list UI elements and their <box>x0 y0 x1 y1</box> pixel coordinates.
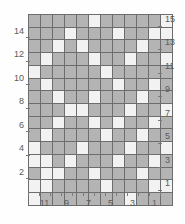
pattern-cell[interactable] <box>125 65 137 78</box>
pattern-cell[interactable] <box>161 193 173 206</box>
pattern-cell[interactable] <box>137 142 149 155</box>
pattern-cell[interactable] <box>77 104 89 117</box>
pattern-cell[interactable] <box>137 167 149 180</box>
pattern-cell[interactable] <box>53 27 65 40</box>
pattern-cell[interactable] <box>41 116 53 129</box>
pattern-cell[interactable] <box>137 53 149 66</box>
pattern-cell[interactable] <box>65 65 77 78</box>
pattern-cell[interactable] <box>77 180 89 193</box>
pattern-cell[interactable] <box>125 15 137 28</box>
pattern-cell[interactable] <box>77 91 89 104</box>
pattern-cell[interactable] <box>113 53 125 66</box>
pattern-cell[interactable] <box>101 91 113 104</box>
pattern-cell[interactable] <box>113 78 125 91</box>
pattern-cell[interactable] <box>149 116 161 129</box>
pattern-cell[interactable] <box>125 154 137 167</box>
pattern-cell[interactable] <box>53 167 65 180</box>
pattern-cell[interactable] <box>41 180 53 193</box>
pattern-cell[interactable] <box>53 53 65 66</box>
pattern-cell[interactable] <box>41 129 53 142</box>
pattern-cell[interactable] <box>41 167 53 180</box>
pattern-cell[interactable] <box>113 142 125 155</box>
pattern-cell[interactable] <box>137 154 149 167</box>
pattern-cell[interactable] <box>101 78 113 91</box>
pattern-cell[interactable] <box>53 116 65 129</box>
pattern-cell[interactable] <box>101 154 113 167</box>
pattern-cell[interactable] <box>113 167 125 180</box>
pattern-cell[interactable] <box>77 15 89 28</box>
pattern-cell[interactable] <box>89 180 101 193</box>
pattern-cell[interactable] <box>101 104 113 117</box>
pattern-cell[interactable] <box>41 27 53 40</box>
pattern-cell[interactable] <box>149 91 161 104</box>
pattern-cell[interactable] <box>113 180 125 193</box>
pattern-cell[interactable] <box>29 154 41 167</box>
pattern-cell[interactable] <box>101 15 113 28</box>
pattern-cell[interactable] <box>149 167 161 180</box>
pattern-cell[interactable] <box>101 167 113 180</box>
pattern-cell[interactable] <box>77 27 89 40</box>
pattern-cell[interactable] <box>41 142 53 155</box>
pattern-cell[interactable] <box>77 142 89 155</box>
pattern-cell[interactable] <box>101 129 113 142</box>
pattern-cell[interactable] <box>113 15 125 28</box>
pattern-cell[interactable] <box>41 91 53 104</box>
pattern-cell[interactable] <box>29 40 41 53</box>
pattern-cell[interactable] <box>125 91 137 104</box>
pattern-cell[interactable] <box>77 154 89 167</box>
pattern-cell[interactable] <box>53 91 65 104</box>
pattern-cell[interactable] <box>149 104 161 117</box>
pattern-cell[interactable] <box>101 180 113 193</box>
pattern-cell[interactable] <box>29 53 41 66</box>
pattern-cell[interactable] <box>77 78 89 91</box>
pattern-cell[interactable] <box>149 40 161 53</box>
pattern-cell[interactable] <box>41 40 53 53</box>
pattern-cell[interactable] <box>53 15 65 28</box>
pattern-cell[interactable] <box>89 154 101 167</box>
pattern-cell[interactable] <box>29 142 41 155</box>
pattern-cell[interactable] <box>101 65 113 78</box>
pattern-cell[interactable] <box>29 104 41 117</box>
pattern-cell[interactable] <box>125 142 137 155</box>
pattern-cell[interactable] <box>65 116 77 129</box>
pattern-cell[interactable] <box>29 15 41 28</box>
pattern-cell[interactable] <box>89 91 101 104</box>
pattern-cell[interactable] <box>65 129 77 142</box>
pattern-cell[interactable] <box>53 180 65 193</box>
pattern-cell[interactable] <box>113 154 125 167</box>
pattern-cell[interactable] <box>149 53 161 66</box>
pattern-cell[interactable] <box>41 154 53 167</box>
pattern-cell[interactable] <box>89 116 101 129</box>
pattern-cell[interactable] <box>77 129 89 142</box>
pattern-cell[interactable] <box>41 15 53 28</box>
pattern-cell[interactable] <box>89 27 101 40</box>
pattern-cell[interactable] <box>65 180 77 193</box>
pattern-cell[interactable] <box>53 129 65 142</box>
pattern-cell[interactable] <box>89 65 101 78</box>
pattern-cell[interactable] <box>29 78 41 91</box>
pattern-cell[interactable] <box>137 15 149 28</box>
pattern-cell[interactable] <box>113 104 125 117</box>
pattern-cell[interactable] <box>149 154 161 167</box>
pattern-cell[interactable] <box>125 40 137 53</box>
pattern-cell[interactable] <box>113 40 125 53</box>
pattern-cell[interactable] <box>137 180 149 193</box>
pattern-cell[interactable] <box>125 167 137 180</box>
pattern-cell[interactable] <box>29 91 41 104</box>
pattern-cell[interactable] <box>41 65 53 78</box>
pattern-cell[interactable] <box>101 116 113 129</box>
pattern-cell[interactable] <box>77 167 89 180</box>
pattern-cell[interactable] <box>29 27 41 40</box>
pattern-cell[interactable] <box>113 116 125 129</box>
pattern-cell[interactable] <box>77 116 89 129</box>
pattern-cell[interactable] <box>65 91 77 104</box>
pattern-cell[interactable] <box>41 104 53 117</box>
pattern-cell[interactable] <box>29 116 41 129</box>
pattern-cell[interactable] <box>65 142 77 155</box>
pattern-cell[interactable] <box>137 78 149 91</box>
pattern-cell[interactable] <box>65 40 77 53</box>
pattern-cell[interactable] <box>77 65 89 78</box>
pattern-cell[interactable] <box>101 40 113 53</box>
pattern-cell[interactable] <box>125 27 137 40</box>
pattern-cell[interactable] <box>41 78 53 91</box>
